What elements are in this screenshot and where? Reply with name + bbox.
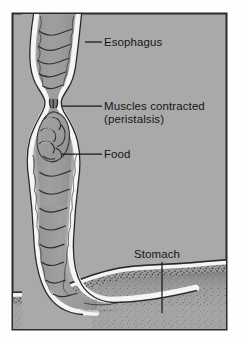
figure-root: Esophagus Muscles contracted (peristalsi… — [0, 0, 243, 344]
label-food: Food — [104, 148, 131, 160]
peristalsis-illustration: Esophagus Muscles contracted (peristalsi… — [0, 0, 243, 344]
label-muscles-contracted-line2: (peristalsis) — [104, 113, 164, 125]
label-stomach: Stomach — [134, 248, 180, 260]
label-muscles-contracted: Muscles contracted — [104, 100, 205, 112]
label-esophagus: Esophagus — [104, 36, 163, 48]
